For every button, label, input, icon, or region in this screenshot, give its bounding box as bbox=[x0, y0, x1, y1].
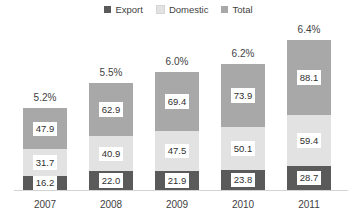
bar-segment-domestic[interactable]: 40.9 bbox=[89, 136, 133, 171]
bar-stack: 28.759.488.1 bbox=[287, 40, 331, 190]
legend-item-domestic[interactable]: Domestic bbox=[156, 5, 209, 15]
bar-segment-total[interactable]: 62.9 bbox=[89, 83, 133, 137]
bar-segment-total[interactable]: 73.9 bbox=[221, 64, 265, 127]
bar-segment-value-label: 40.9 bbox=[99, 147, 124, 162]
bar-segment-value-label: 22.0 bbox=[99, 173, 124, 188]
bar-segment-value-label: 73.9 bbox=[231, 88, 256, 103]
bar-group: 28.759.488.16.4% bbox=[287, 22, 331, 190]
axis-baseline bbox=[14, 190, 348, 191]
bar-segment-value-label: 47.5 bbox=[165, 144, 190, 159]
bar-segment-total[interactable]: 88.1 bbox=[287, 40, 331, 115]
bar-segment-total[interactable]: 69.4 bbox=[155, 72, 199, 131]
legend-item-label: Domestic bbox=[169, 5, 209, 15]
bar-segment-value-label: 47.9 bbox=[33, 122, 58, 137]
plot-area: 16.231.747.95.2%22.040.962.95.5%21.947.5… bbox=[0, 22, 357, 190]
stacked-bar-chart: ExportDomesticTotal 16.231.747.95.2%22.0… bbox=[0, 0, 357, 218]
bar-segment-domestic[interactable]: 59.4 bbox=[287, 115, 331, 166]
bar-segment-domestic[interactable]: 31.7 bbox=[23, 149, 67, 176]
bar-group: 16.231.747.95.2% bbox=[23, 22, 67, 190]
bar-segment-domestic[interactable]: 50.1 bbox=[221, 127, 265, 170]
bar-group: 21.947.569.46.0% bbox=[155, 22, 199, 190]
bar-stack: 16.231.747.9 bbox=[23, 108, 67, 190]
bar-stack: 21.947.569.4 bbox=[155, 72, 199, 190]
bar-segment-value-label: 88.1 bbox=[297, 70, 322, 85]
legend-swatch-icon bbox=[104, 6, 111, 13]
bar-segment-value-label: 23.8 bbox=[231, 173, 256, 188]
x-axis-tick-label: 2010 bbox=[221, 200, 265, 210]
bar-segment-value-label: 62.9 bbox=[99, 102, 124, 117]
bar-segment-value-label: 28.7 bbox=[297, 171, 322, 186]
legend-item-total[interactable]: Total bbox=[221, 5, 252, 15]
legend-item-export[interactable]: Export bbox=[104, 5, 142, 15]
bar-percent-annotation: 6.2% bbox=[221, 49, 265, 59]
legend-swatch-icon bbox=[221, 6, 228, 13]
bar-percent-annotation: 5.5% bbox=[89, 68, 133, 78]
bar-percent-annotation: 6.0% bbox=[155, 57, 199, 67]
bar-segment-value-label: 16.2 bbox=[33, 176, 58, 191]
legend-item-label: Total bbox=[232, 5, 252, 15]
bar-group: 23.850.173.96.2% bbox=[221, 22, 265, 190]
legend-swatch-icon bbox=[156, 5, 165, 14]
bar-segment-export[interactable]: 28.7 bbox=[287, 166, 331, 190]
bar-percent-annotation: 6.4% bbox=[287, 25, 331, 35]
bar-segment-export[interactable]: 21.9 bbox=[155, 171, 199, 190]
bar-segment-domestic[interactable]: 47.5 bbox=[155, 131, 199, 171]
x-axis-tick-label: 2009 bbox=[155, 200, 199, 210]
legend-item-label: Export bbox=[115, 5, 142, 15]
x-axis-tick-label: 2007 bbox=[23, 200, 67, 210]
x-axis: 20072008200920102011 bbox=[0, 192, 357, 218]
x-axis-tick-label: 2008 bbox=[89, 200, 133, 210]
bar-segment-export[interactable]: 23.8 bbox=[221, 170, 265, 190]
bar-segment-export[interactable]: 16.2 bbox=[23, 176, 67, 190]
bar-segment-value-label: 31.7 bbox=[33, 155, 58, 170]
x-axis-tick-label: 2011 bbox=[287, 200, 331, 210]
bar-segment-value-label: 69.4 bbox=[165, 94, 190, 109]
bar-stack: 23.850.173.9 bbox=[221, 64, 265, 190]
bar-group: 22.040.962.95.5% bbox=[89, 22, 133, 190]
bar-stack: 22.040.962.9 bbox=[89, 83, 133, 190]
bar-segment-value-label: 59.4 bbox=[297, 133, 322, 148]
bar-percent-annotation: 5.2% bbox=[23, 93, 67, 103]
bar-segment-value-label: 21.9 bbox=[165, 173, 190, 188]
chart-legend: ExportDomesticTotal bbox=[0, 5, 357, 15]
bar-segment-total[interactable]: 47.9 bbox=[23, 108, 67, 149]
bar-segment-value-label: 50.1 bbox=[231, 141, 256, 156]
bar-segment-export[interactable]: 22.0 bbox=[89, 171, 133, 190]
